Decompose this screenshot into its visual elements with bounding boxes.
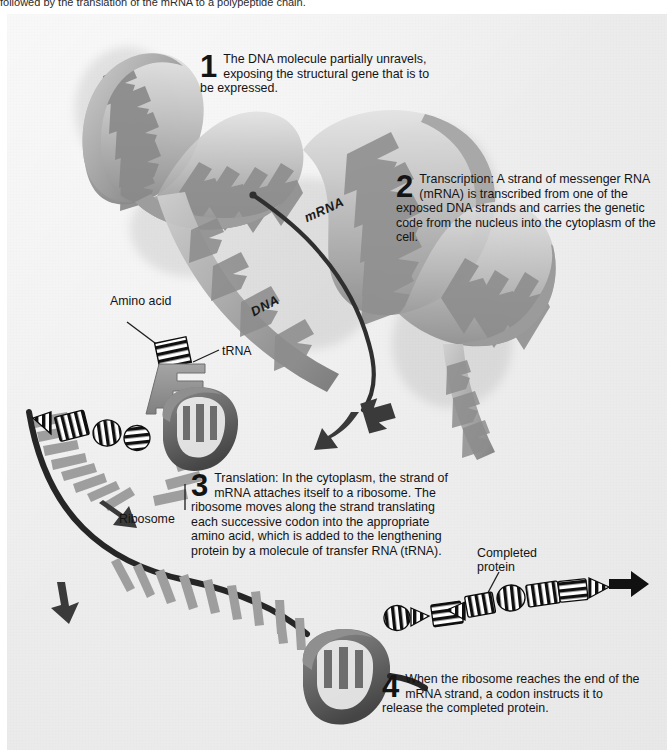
trna-label: tRNA <box>222 344 252 358</box>
flow-arrow-to-cytoplasm <box>314 412 359 450</box>
arrow-strand-direction <box>51 582 79 624</box>
step-3-text: 3 Translation: In the cytoplasm, the str… <box>191 471 461 559</box>
protein-bead <box>411 608 429 626</box>
protein-bead <box>383 604 411 632</box>
step-1-number: 1 <box>200 53 217 80</box>
diagram-stage: followed by the translation of the mRNA … <box>0 0 668 750</box>
completed-protein-chain <box>383 571 649 632</box>
protein-bead <box>526 581 561 607</box>
protein-bead <box>464 592 495 618</box>
protein-synthesis-artwork <box>7 14 667 750</box>
step-2-number: 2 <box>396 173 413 200</box>
step-3-number: 3 <box>191 472 208 499</box>
step-3-body: Translation: In the cytoplasm, the stran… <box>191 471 448 558</box>
protein-bead <box>558 579 588 603</box>
illustration-panel: 1 The DNA molecule partially unravels, e… <box>7 14 667 750</box>
mrna-bases-lower <box>111 558 286 634</box>
step-2-body: Transcription: A strand of messenger RNA… <box>396 172 656 244</box>
completed-protein-label: Completed protein <box>477 546 565 575</box>
step-1-text: 1 The DNA molecule partially unravels, e… <box>200 52 436 96</box>
step-2-text: 2 Transcription: A strand of messenger R… <box>396 172 664 245</box>
step-1-body: The DNA molecule partially unravels, exp… <box>200 52 429 95</box>
protein-release-arrow <box>609 571 649 597</box>
flow-arrow-transcription <box>356 396 398 437</box>
trna-leader-line <box>193 350 219 362</box>
step-4-text: 4 When the ribosome reaches the end of t… <box>382 672 640 716</box>
amino-acid-label: Amino acid <box>110 294 174 308</box>
ribosome-label: Ribosome <box>119 512 175 526</box>
protein-bead <box>496 584 527 613</box>
dna-double-helix <box>75 47 556 460</box>
protein-bead <box>589 578 609 598</box>
step-4-body: When the ribosome reaches the end of the… <box>382 672 639 715</box>
step-4-number: 4 <box>382 673 399 700</box>
amino-acid-leader-line <box>127 322 159 346</box>
top-caption: followed by the translation of the mRNA … <box>0 0 430 10</box>
